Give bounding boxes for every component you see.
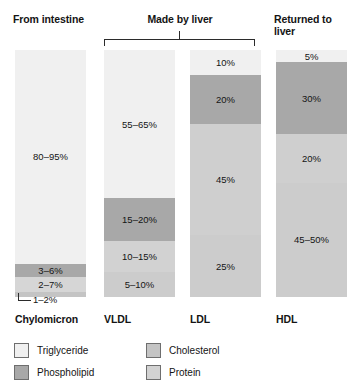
bar-segment-cholesterol: 10–15% <box>104 241 175 272</box>
segment-value-label: 25% <box>216 261 235 272</box>
segment-value-label: 15–20% <box>122 214 157 225</box>
legend-item-cholesterol: Cholesterol <box>146 343 220 358</box>
bar-segment-triglyceride: 5% <box>276 50 347 62</box>
legend-swatch-protein <box>146 365 161 380</box>
segment-value-label: 30% <box>302 93 321 104</box>
bracket-right-tick <box>254 39 255 46</box>
segment-value-label: 3–6% <box>38 265 62 276</box>
segment-value-label: 5–10% <box>125 279 155 290</box>
legend-item-protein: Protein <box>146 365 201 380</box>
group-heading-returned-to-liver: Returned toliver <box>274 13 354 37</box>
made-by-liver-bracket <box>104 31 255 41</box>
legend-item-triglyceride: Triglyceride <box>14 343 88 358</box>
column-ldl: 10%20%45%25% <box>190 50 261 297</box>
bar-segment-cholesterol: 45% <box>190 124 261 235</box>
segment-value-label: 55–65% <box>122 119 157 130</box>
bracket-horizontal <box>104 39 255 40</box>
column-label-vldl: VLDL <box>104 313 131 325</box>
stacked-bar: 80–95%3–6%2–7% <box>15 50 86 297</box>
segment-value-label: 80–95% <box>33 151 68 162</box>
group-heading-returned-line1: Returned to <box>274 13 332 25</box>
bar-segment-phospholipid: 20% <box>190 75 261 124</box>
legend-label-protein: Protein <box>169 367 201 379</box>
stacked-bar: 5%30%20%45–50% <box>276 50 347 297</box>
stacked-bar: 10%20%45%25% <box>190 50 261 297</box>
column-vldl: 55–65%15–20%10–15%5–10% <box>104 50 175 297</box>
bar-segment-triglyceride: 55–65% <box>104 50 175 198</box>
bar-segment-cholesterol: 20% <box>276 134 347 182</box>
column-chylomicron: 80–95%3–6%2–7% <box>15 50 86 297</box>
legend-label-cholesterol: Cholesterol <box>169 345 220 357</box>
bar-segment-phospholipid: 30% <box>276 62 347 134</box>
segment-value-label: 5% <box>305 51 319 62</box>
stacked-bar: 55–65%15–20%10–15%5–10% <box>104 50 175 297</box>
column-label-chylomicron: Chylomicron <box>15 313 78 325</box>
bar-segment-triglyceride: 80–95% <box>15 50 86 264</box>
segment-value-label: 10–15% <box>122 251 157 262</box>
callout-leader-horizontal <box>18 300 31 301</box>
bracket-left-tick <box>104 39 105 46</box>
legend-swatch-phospholipid <box>14 365 29 380</box>
bar-segment-phospholipid: 15–20% <box>104 198 175 241</box>
legend-item-phospholipid: Phospholipid <box>14 365 94 380</box>
bar-segment-triglyceride: 10% <box>190 50 261 75</box>
segment-value-label: 2–7% <box>38 279 62 290</box>
group-heading-made-by-liver: Made by liver <box>104 13 256 25</box>
legend-label-phospholipid: Phospholipid <box>37 367 94 379</box>
group-heading-from-intestine: From intestine <box>13 13 109 25</box>
legend-swatch-cholesterol <box>146 343 161 358</box>
segment-value-label: 20% <box>216 94 235 105</box>
legend-label-triglyceride: Triglyceride <box>37 345 88 357</box>
legend-swatch-triglyceride <box>14 343 29 358</box>
group-heading-returned-line2: liver <box>274 25 295 37</box>
segment-value-label: 20% <box>302 153 321 164</box>
bar-segment-protein: 45–50% <box>276 183 347 297</box>
callout-label: 1–2% <box>33 294 57 306</box>
segment-value-label: 10% <box>216 57 235 68</box>
bar-segment-phospholipid: 3–6% <box>15 264 86 278</box>
column-hdl: 5%30%20%45–50% <box>276 50 347 297</box>
chylomicron-protein-callout: 1–2% <box>18 293 98 309</box>
bar-segment-cholesterol: 2–7% <box>15 277 86 292</box>
column-label-hdl: HDL <box>276 313 297 325</box>
bar-segment-protein: 25% <box>190 235 261 297</box>
column-label-ldl: LDL <box>190 313 210 325</box>
bar-segment-protein: 5–10% <box>104 272 175 297</box>
segment-value-label: 45% <box>216 174 235 185</box>
segment-value-label: 45–50% <box>294 234 329 245</box>
lipoprotein-composition-figure: From intestine Made by liver Returned to… <box>0 0 356 390</box>
